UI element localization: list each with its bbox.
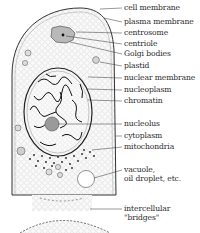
label-plastid: plastid [124,62,149,70]
nucleus [24,68,92,156]
cell-illustration [0,0,200,233]
label-cytoplasm: cytoplasm [124,132,162,140]
neighbor-cell [20,195,110,233]
label-vacuole: vacuole, [124,166,155,174]
centriole [62,34,65,37]
label-mitochondria: mitochondria [124,143,174,151]
cell-diagram: cell membrane plasma membrane centrosome… [0,0,200,233]
label-centriole: centriole [124,40,157,48]
vacuole [78,171,95,188]
label-nucleolus: nucleolus [124,120,160,128]
label-golgi-bodies: Golgi bodies [124,50,171,58]
label-oil-droplet: oil droplet, etc. [124,175,181,183]
label-nucleoplasm: nucleoplasm [124,86,171,94]
label-intercellular: intercellular [124,205,170,213]
label-nuclear-membrane: nuclear membrane [124,74,195,82]
label-chromatin: chromatin [124,97,163,105]
label-cell-membrane: cell membrane [124,4,180,12]
nucleolus [45,117,59,131]
label-centrosome: centrosome [124,29,168,37]
label-plasma-membrane: plasma membrane [124,18,194,26]
label-bridges: "bridges" [124,214,159,222]
